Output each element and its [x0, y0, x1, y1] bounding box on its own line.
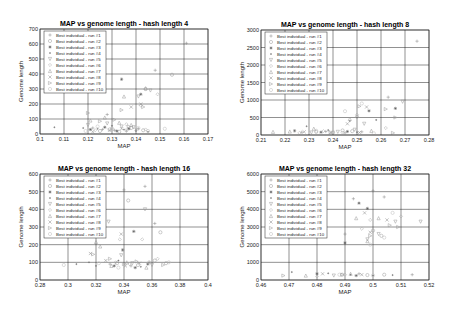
legend-entry: Best individual - run #7	[48, 214, 101, 219]
legend-entry: Best individual - run #7	[48, 69, 101, 74]
x-tick-label: 0.4	[204, 282, 212, 288]
x-tick-label: 0.32	[91, 282, 102, 288]
legend-entry: Best individual - run #2	[269, 184, 322, 189]
chart-title: MAP vs genome length - hash length 32	[279, 165, 411, 173]
legend-label: Best individual - run #6	[277, 208, 322, 213]
x-axis-label: MAP	[117, 143, 130, 149]
x-tick-label: 0.15	[155, 136, 166, 142]
legend: Best individual - run #1Best individual …	[44, 31, 106, 93]
y-tick-label: 300	[29, 86, 38, 92]
legend-label: Best individual - run #4	[277, 196, 322, 201]
x-tick-label: 0.48	[312, 282, 323, 288]
legend-entry: Best individual - run #7	[269, 214, 322, 219]
legend-label: Best individual - run #2	[56, 184, 101, 189]
chart-panel-3: 0.280.30.320.340.360.380.401002003004005…	[18, 165, 212, 295]
data-point	[328, 273, 329, 274]
legend-marker	[49, 52, 50, 53]
legend-entry: Best individual - run #3	[269, 190, 322, 195]
data-point	[328, 130, 329, 131]
data-point	[376, 119, 377, 120]
x-tick-label: 0.14	[131, 136, 142, 142]
y-axis-label: Genome length	[239, 206, 245, 247]
data-point	[291, 271, 292, 272]
x-axis-label: MAP	[117, 289, 130, 295]
legend-label: Best individual - run #6	[277, 64, 322, 69]
y-axis-label: Genome length	[18, 61, 24, 102]
y-tick-label: 500	[29, 189, 38, 195]
x-tick-label: 0.49	[340, 282, 351, 288]
data-point	[356, 132, 357, 133]
y-tick-label: 1500	[247, 80, 259, 86]
legend-entry: Best individual - run #5	[269, 202, 322, 207]
legend-entry: Best individual - run #4	[49, 51, 101, 56]
data-point	[76, 264, 77, 265]
x-tick-label: 0.34	[119, 282, 130, 288]
y-tick-label: 700	[29, 26, 38, 32]
legend-label: Best individual - run #5	[277, 202, 322, 207]
y-tick-label: 400	[29, 71, 38, 77]
x-tick-label: 0.22	[280, 137, 291, 143]
y-tick-label: 500	[250, 115, 259, 121]
data-point	[350, 274, 351, 275]
legend-marker	[270, 53, 271, 54]
y-axis-label: Genome length	[239, 62, 245, 103]
legend-entry: Best individual - run #3	[269, 46, 322, 51]
legend-entry: Best individual - run #10	[269, 88, 324, 93]
chart-panel-4: 0.460.470.480.490.50.510.520100020003000…	[239, 165, 434, 295]
data-point	[132, 230, 135, 233]
legend-label: Best individual - run #10	[56, 87, 104, 92]
legend-label: Best individual - run #4	[277, 52, 322, 57]
data-point	[134, 266, 137, 269]
legend-label: Best individual - run #4	[56, 196, 101, 201]
legend-entry: Best individual - run #6	[48, 63, 101, 68]
chart-panel-1: 0.10.110.120.130.140.150.160.17010020030…	[18, 20, 213, 149]
legend-label: Best individual - run #7	[56, 214, 101, 219]
data-point	[113, 264, 116, 267]
legend-label: Best individual - run #8	[277, 220, 322, 225]
legend-entry: Best individual - run #1	[48, 178, 101, 183]
legend-label: Best individual - run #2	[277, 40, 322, 45]
x-tick-label: 0.36	[147, 282, 158, 288]
x-axis-label: MAP	[338, 289, 351, 295]
legend-entry: Best individual - run #1	[269, 178, 322, 183]
legend-entry: Best individual - run #10	[48, 87, 103, 92]
legend-label: Best individual - run #3	[277, 190, 322, 195]
legend-entry: Best individual - run #8	[269, 220, 322, 225]
legend-label: Best individual - run #1	[56, 33, 101, 38]
x-tick-label: 0.17	[203, 136, 214, 142]
legend-label: Best individual - run #5	[56, 57, 101, 62]
data-point	[306, 126, 307, 127]
legend-entry: Best individual - run #4	[49, 196, 101, 201]
legend-entry: Best individual - run #7	[269, 70, 322, 75]
chart-panel-2: 0.210.220.230.240.250.260.270.2805001000…	[239, 21, 434, 150]
y-tick-label: 1000	[247, 97, 259, 103]
y-tick-label: 100	[29, 116, 38, 122]
legend-label: Best individual - run #10	[56, 232, 104, 237]
data-point	[135, 130, 136, 131]
x-tick-label: 0.3	[64, 282, 72, 288]
legend-label: Best individual - run #10	[277, 88, 325, 93]
y-tick-label: 600	[29, 41, 38, 47]
legend-label: Best individual - run #9	[277, 226, 322, 231]
legend-label: Best individual - run #8	[56, 220, 101, 225]
data-point	[118, 260, 119, 261]
x-axis-label: MAP	[338, 144, 351, 150]
legend-label: Best individual - run #3	[56, 45, 101, 50]
y-tick-label: 5000	[247, 189, 259, 195]
legend-entry: Best individual - run #9	[269, 82, 322, 87]
legend: Best individual - run #1Best individual …	[44, 176, 106, 238]
y-tick-label: 200	[29, 101, 38, 107]
x-tick-label: 0.52	[424, 282, 435, 288]
y-tick-label: 1000	[247, 259, 259, 265]
legend-entry: Best individual - run #2	[48, 184, 101, 189]
y-tick-label: 2000	[247, 242, 259, 248]
y-tick-label: 600	[29, 171, 38, 177]
data-point	[355, 274, 358, 277]
y-tick-label: 0	[256, 132, 259, 138]
legend-label: Best individual - run #1	[277, 178, 322, 183]
legend-entry: Best individual - run #9	[48, 81, 101, 86]
y-tick-label: 2500	[247, 45, 259, 51]
legend-label: Best individual - run #1	[277, 34, 322, 39]
legend-label: Best individual - run #5	[277, 58, 322, 63]
y-tick-label: 100	[29, 259, 38, 265]
